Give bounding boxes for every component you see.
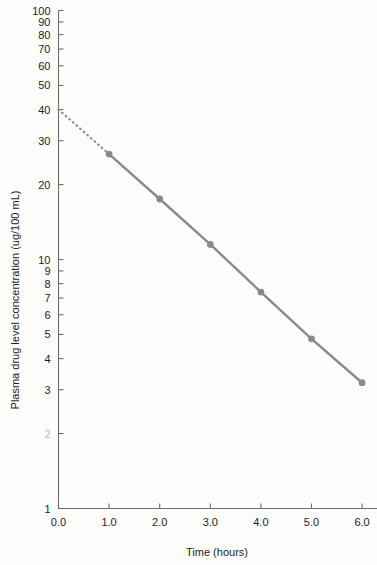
x-tick-label: 5.0 [304, 516, 319, 528]
y-tick-label: 20 [38, 179, 50, 191]
x-tick-label: 2.0 [152, 516, 167, 528]
y-tick-label: 4 [44, 353, 50, 365]
y-tick-label: 80 [38, 29, 50, 41]
y-axis-title: Plasma drug level concentration (ug/100 … [9, 191, 21, 410]
data-point-marker [106, 151, 113, 158]
y-tick-label: 60 [38, 60, 50, 72]
y-tick-label: 50 [38, 79, 50, 91]
chart-container: 100908070605040302010987654321 0.01.02.0… [0, 0, 377, 565]
y-tick-label: 90 [38, 16, 50, 28]
y-tick-label: 40 [38, 104, 50, 116]
x-tick-label: 6.0 [354, 516, 369, 528]
data-point-marker [156, 196, 163, 203]
y-tick-label: 100 [32, 5, 50, 17]
x-tick-label: 4.0 [253, 516, 268, 528]
x-tick-label: 3.0 [203, 516, 218, 528]
y-tick-label: 9 [44, 265, 50, 277]
y-tick-label: 2 [44, 428, 50, 440]
x-tick-label: 0.0 [51, 516, 66, 528]
x-tick-label: 1.0 [101, 516, 116, 528]
y-tick-label: 30 [38, 135, 50, 147]
data-point-marker [207, 241, 214, 248]
y-axis-tick-marks [59, 11, 64, 509]
y-tick-label: 8 [44, 278, 50, 290]
y-tick-label: 6 [44, 309, 50, 321]
y-tick-label: 3 [44, 384, 50, 396]
x-axis-title: Time (hours) [186, 546, 248, 558]
y-tick-label: 1 [44, 503, 50, 515]
y-tick-label: 5 [44, 328, 50, 340]
data-point-marker [308, 335, 315, 342]
y-tick-label: 7 [44, 292, 50, 304]
data-point-marker [258, 289, 265, 296]
semilog-plot: 100908070605040302010987654321 0.01.02.0… [0, 0, 377, 565]
plot-background [0, 0, 377, 565]
data-point-marker [359, 379, 366, 386]
y-tick-label: 70 [38, 43, 50, 55]
y-tick-label: 10 [38, 254, 50, 266]
